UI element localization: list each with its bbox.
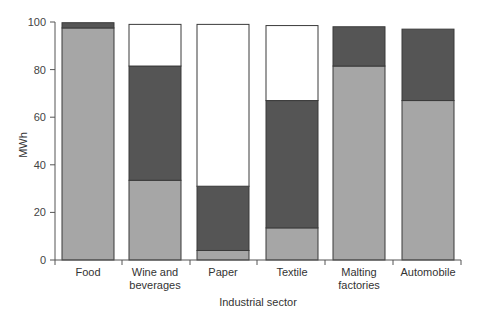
x-category-label: Maltingfactories	[338, 266, 380, 291]
bar-segment	[197, 186, 249, 250]
x-category-label: Textile	[276, 266, 307, 278]
bar-segment	[62, 23, 114, 28]
x-labels-group: FoodWine andbeveragesPaperTextileMalting…	[55, 260, 461, 291]
bar-segment	[266, 101, 318, 228]
bar-segment	[266, 26, 318, 101]
bar-stack	[62, 23, 114, 260]
x-category-label: Automobile	[400, 266, 455, 278]
y-tick-label: 100	[28, 16, 46, 28]
x-category-label: Food	[75, 266, 100, 278]
bar-stack	[266, 26, 318, 260]
bar-segment	[402, 101, 454, 260]
bar-stack	[129, 24, 181, 260]
y-tick-label: 80	[34, 64, 46, 76]
bar-stack	[333, 27, 385, 260]
bar-segment	[197, 24, 249, 186]
bar-segment	[402, 29, 454, 100]
y-ticks-group: 020406080100	[28, 16, 55, 266]
y-tick-label: 60	[34, 111, 46, 123]
bar-stack	[402, 29, 454, 260]
bar-segment	[62, 28, 114, 260]
bar-segment	[129, 180, 181, 260]
x-category-label: Paper	[208, 266, 238, 278]
bar-segment	[333, 27, 385, 66]
y-tick-label: 40	[34, 159, 46, 171]
axes-group	[55, 22, 461, 260]
bar-segment	[266, 228, 318, 260]
x-category-label: Wine andbeverages	[129, 266, 181, 291]
bar-segment	[333, 66, 385, 260]
x-axis-title: Industrial sector	[219, 296, 297, 308]
bar-segment	[129, 66, 181, 180]
stacked-bar-chart: 020406080100 FoodWine andbeveragesPaperT…	[0, 0, 478, 325]
y-tick-label: 20	[34, 206, 46, 218]
bar-segment	[129, 24, 181, 66]
y-axis-title: MWh	[17, 132, 29, 158]
bar-stack	[197, 24, 249, 260]
bar-segment	[197, 250, 249, 260]
bars-group	[62, 23, 454, 260]
y-tick-label: 0	[40, 254, 46, 266]
